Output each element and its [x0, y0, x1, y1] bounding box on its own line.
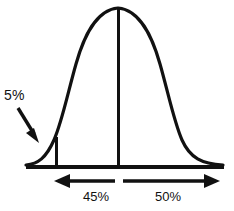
bell-curve-diagram: [0, 0, 234, 211]
left-region-percent-label: 45%: [76, 190, 116, 203]
left-region-arrow-icon: [54, 174, 115, 188]
figure-canvas: 5% 45% 50%: [0, 0, 234, 211]
tail-percent-label: 5%: [4, 88, 25, 102]
right-region-arrow-icon: [123, 174, 220, 188]
right-region-percent-label: 50%: [148, 190, 188, 203]
tail-callout-arrow-icon: [18, 108, 39, 143]
